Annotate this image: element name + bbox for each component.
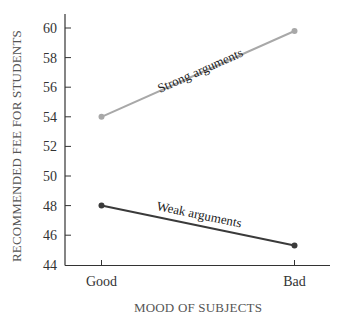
y-tick-50: 50 — [43, 169, 57, 184]
y-axis-title: RECOMMENDED FEE FOR STUDENTS — [9, 30, 24, 262]
series-weak-arguments: Weak arguments — [99, 198, 298, 248]
data-point — [99, 203, 105, 209]
data-point — [292, 28, 298, 34]
series-strong-arguments: Strong arguments — [99, 28, 298, 120]
y-tick-44: 44 — [43, 258, 57, 273]
data-point — [292, 243, 298, 249]
data-point — [99, 114, 105, 120]
x-tick-label-good: Good — [86, 274, 117, 289]
series-label-strong: Strong arguments — [155, 45, 245, 96]
line-chart: 60 58 56 54 52 50 48 46 44 Good Bad MOOD… — [0, 0, 346, 328]
y-tick-52: 52 — [43, 139, 57, 154]
y-tick-60: 60 — [43, 21, 57, 36]
y-tick-54: 54 — [43, 110, 57, 125]
y-ticks — [65, 28, 71, 235]
y-tick-58: 58 — [43, 51, 57, 66]
y-tick-labels: 60 58 56 54 52 50 48 46 44 — [43, 21, 57, 273]
y-tick-56: 56 — [43, 80, 57, 95]
x-tick-label-bad: Bad — [283, 274, 306, 289]
y-tick-46: 46 — [43, 228, 57, 243]
x-axis-title: MOOD OF SUBJECTS — [134, 300, 262, 315]
y-tick-48: 48 — [43, 199, 57, 214]
